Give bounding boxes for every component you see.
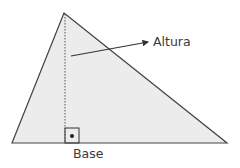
right-angle-dot	[70, 134, 74, 138]
triangle-diagram	[0, 0, 240, 168]
base-label: Base	[73, 148, 103, 161]
triangle	[12, 13, 227, 143]
height-label: Altura	[153, 36, 191, 49]
